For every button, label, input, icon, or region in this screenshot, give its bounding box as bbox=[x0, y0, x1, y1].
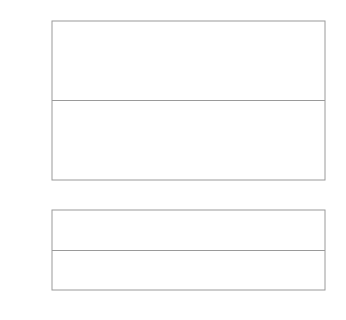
chart-figure bbox=[0, 0, 346, 320]
top-panel bbox=[0, 0, 325, 180]
bottom-panel bbox=[22, 210, 325, 290]
